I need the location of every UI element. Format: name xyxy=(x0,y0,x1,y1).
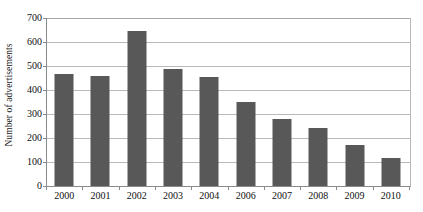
bar xyxy=(345,145,364,186)
bar xyxy=(91,76,110,186)
x-axis-tick-label: 2009 xyxy=(345,190,365,202)
x-axis-tick-label: 2006 xyxy=(236,190,256,202)
x-axis-tick-label: 2000 xyxy=(54,190,74,202)
bar-slot xyxy=(82,18,118,186)
bar-slot xyxy=(191,18,227,186)
bars-layer xyxy=(46,18,409,186)
bar xyxy=(309,128,328,186)
bar-chart-figure: Number of advertisements 010020030040050… xyxy=(0,0,423,212)
y-axis-tick-label: 700 xyxy=(27,13,42,23)
x-axis-tick-label: 2007 xyxy=(272,190,292,202)
bar xyxy=(236,102,255,186)
x-axis-tick-mark xyxy=(409,186,410,190)
y-axis-tick-label: 300 xyxy=(27,109,42,119)
x-axis-tick-label: 2001 xyxy=(90,190,110,202)
bar xyxy=(200,77,219,186)
x-axis-tick-labels: 2000200120022003200420062007200820092010 xyxy=(46,190,409,208)
x-axis-tick-label: 2002 xyxy=(127,190,147,202)
bar-slot xyxy=(373,18,409,186)
x-axis-tick-label: 2003 xyxy=(163,190,183,202)
bar-slot xyxy=(264,18,300,186)
x-axis-tick-label: 2010 xyxy=(381,190,401,202)
y-axis-tick-label: 600 xyxy=(27,37,42,47)
y-axis-tick-label: 400 xyxy=(27,85,42,95)
bar-slot xyxy=(46,18,82,186)
bar xyxy=(164,69,183,186)
bar-slot xyxy=(119,18,155,186)
bar xyxy=(127,31,146,186)
y-axis-tick-label: 0 xyxy=(37,181,42,191)
bar-slot xyxy=(228,18,264,186)
y-axis-title-text: Number of advertisements xyxy=(4,43,14,146)
y-axis-tick-labels: 0100200300400500600700 xyxy=(16,18,42,186)
bar-slot xyxy=(336,18,372,186)
bar xyxy=(272,119,291,186)
bar xyxy=(381,158,400,186)
x-axis-tick-label: 2004 xyxy=(199,190,219,202)
bar-slot xyxy=(300,18,336,186)
x-axis-tick-label: 2008 xyxy=(308,190,328,202)
y-axis-tick-label: 500 xyxy=(27,61,42,71)
bar xyxy=(55,74,74,186)
y-axis-tick-label: 100 xyxy=(27,157,42,167)
bar-slot xyxy=(155,18,191,186)
y-axis-tick-label: 200 xyxy=(27,133,42,143)
